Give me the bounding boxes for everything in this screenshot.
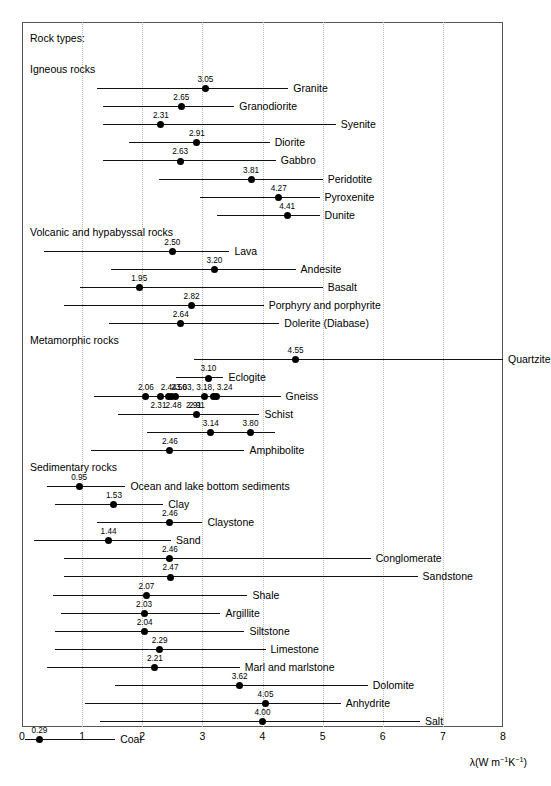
x-tick-label-5: 5 <box>320 730 326 742</box>
series-label: Dolerite (Diabase) <box>284 317 369 329</box>
data-point <box>141 628 148 635</box>
data-row: 2.31Syenite <box>0 118 549 132</box>
value-label: 1.95 <box>131 274 147 283</box>
value-label: 2.46 <box>162 437 178 446</box>
value-label: 2.04 <box>137 618 153 627</box>
data-point <box>151 664 158 671</box>
series-label: Siltstone <box>249 625 289 637</box>
data-point <box>211 266 218 273</box>
value-label: 2.21 <box>147 654 163 663</box>
series-label: Lava <box>234 245 257 257</box>
data-point <box>193 411 200 418</box>
series-label: Pyroxenite <box>325 191 375 203</box>
series-label: Shale <box>252 589 279 601</box>
data-row: 4.55Quartzite <box>0 353 549 367</box>
data-row: 3.143.80 <box>0 426 549 440</box>
x-tick-label-7: 7 <box>440 730 446 742</box>
value-label: 2.50 <box>164 238 180 247</box>
x-tick-label-2: 2 <box>139 730 145 742</box>
section-heading-igneous-rocks: Igneous rocks <box>30 64 95 75</box>
data-row: 0.95Ocean and lake bottom sediments <box>0 480 549 494</box>
range-line <box>47 486 125 487</box>
value-label: 3.20 <box>206 256 222 265</box>
data-point <box>76 483 83 490</box>
data-point <box>193 139 200 146</box>
data-point <box>262 700 269 707</box>
series-label: Andesite <box>301 263 342 275</box>
range-line <box>55 504 163 505</box>
range-line <box>103 106 234 107</box>
value-label: 2.47 <box>163 563 179 572</box>
series-label: Sand <box>176 534 201 546</box>
data-point <box>292 356 299 363</box>
range-line <box>194 359 503 360</box>
series-label: Argillite <box>225 607 259 619</box>
range-line <box>200 197 320 198</box>
data-point <box>207 429 214 436</box>
data-point <box>141 610 148 617</box>
data-row: 2.46Amphibolite <box>0 444 549 458</box>
data-row: 2.29Limestone <box>0 643 549 657</box>
range-line <box>34 540 171 541</box>
data-point <box>284 212 291 219</box>
value-label: 2.64 <box>173 310 189 319</box>
series-label: Peridotite <box>328 173 372 185</box>
value-label: 2.29 <box>152 636 168 645</box>
value-label: 1.53 <box>106 491 122 500</box>
data-point <box>167 574 174 581</box>
x-tick-label-3: 3 <box>199 730 205 742</box>
value-label: 2.31 <box>153 111 169 120</box>
value-label: 4.00 <box>255 708 271 717</box>
x-tick-label-1: 1 <box>79 730 85 742</box>
data-point <box>247 429 254 436</box>
value-label: 3.03, 3.18, 3.24 <box>176 383 233 392</box>
data-row: 2.07Shale <box>0 589 549 603</box>
data-point <box>177 320 184 327</box>
data-point <box>236 682 243 689</box>
range-line <box>44 251 230 252</box>
data-row: 4.05Anhydrite <box>0 697 549 711</box>
data-row: 2.46Claystone <box>0 516 549 530</box>
value-label: 2.46 <box>162 509 178 518</box>
value-label: 2.06 <box>138 383 154 392</box>
x-tick-label-6: 6 <box>380 730 386 742</box>
value-label: 2.63 <box>172 147 188 156</box>
data-row: 3.62Dolomite <box>0 679 549 693</box>
value-label: 4.27 <box>271 184 287 193</box>
data-point <box>136 284 143 291</box>
value-label: 4.41 <box>279 202 295 211</box>
value-label: 2.65 <box>173 93 189 102</box>
data-point <box>157 121 164 128</box>
data-point <box>143 592 150 599</box>
data-point <box>156 646 163 653</box>
data-point <box>166 447 173 454</box>
series-label: Quartzite <box>508 353 551 365</box>
data-row: 2.50Lava <box>0 245 549 259</box>
range-line <box>118 414 259 415</box>
series-label: Ocean and lake bottom sediments <box>130 480 289 492</box>
series-label: Claystone <box>207 516 254 528</box>
value-label: 2.91 <box>189 129 205 138</box>
data-row: 4.00Salt <box>0 715 549 729</box>
value-label: 0.95 <box>71 473 87 482</box>
value-label: 3.62 <box>232 672 248 681</box>
series-label: Diorite <box>275 136 305 148</box>
data-point <box>142 393 149 400</box>
x-axis-title: λ(W m−1K−1) <box>470 756 527 768</box>
value-label: 2.07 <box>138 582 154 591</box>
section-heading-sedimentary-rocks: Sedimentary rocks <box>30 462 117 473</box>
data-row: 1.44Sand <box>0 534 549 548</box>
series-label: Sandstone <box>423 570 473 582</box>
data-point <box>201 393 208 400</box>
range-line <box>53 595 247 596</box>
range-line <box>176 377 223 378</box>
series-label: Dolomite <box>373 679 414 691</box>
series-label: Porphyry and porphyrite <box>269 299 381 311</box>
range-line <box>80 287 322 288</box>
value-label: 2.91 <box>189 401 205 410</box>
value-label: 4.55 <box>288 346 304 355</box>
series-label: Conglomerate <box>376 552 442 564</box>
value-label: 2.03 <box>136 600 152 609</box>
data-point <box>188 302 195 309</box>
